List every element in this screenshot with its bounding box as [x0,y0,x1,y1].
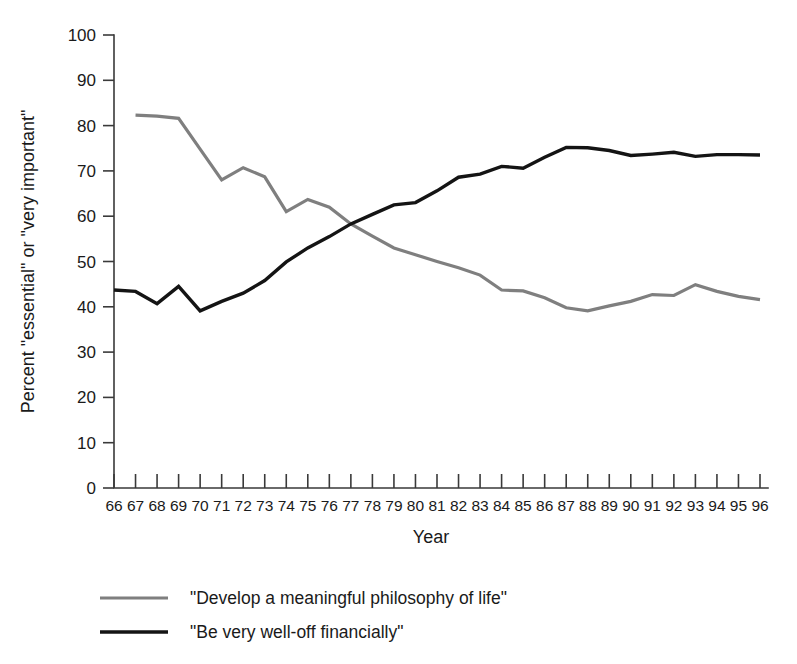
x-tick-label: 92 [665,497,682,514]
y-tick-label: 40 [77,298,96,317]
x-tick-label: 96 [751,497,768,514]
y-tick-label: 70 [77,162,96,181]
y-tick-label: 10 [77,434,96,453]
x-tick-label: 83 [471,497,488,514]
y-tick-label: 50 [77,253,96,272]
y-tick-label: 90 [77,71,96,90]
x-tick-label: 67 [127,497,144,514]
x-tick-label: 85 [515,497,532,514]
x-tick-label: 88 [579,497,596,514]
x-tick-label: 76 [321,497,338,514]
x-tick-label: 81 [428,497,445,514]
x-tick-label: 86 [536,497,553,514]
y-axis: 0102030405060708090100 [68,26,114,498]
y-tick-label: 0 [87,479,96,498]
x-tick-label: 93 [687,497,704,514]
x-tick-label: 75 [299,497,316,514]
x-tick-label: 66 [105,497,122,514]
legend-label: "Be very well-off financially" [190,622,403,642]
x-tick-label: 90 [622,497,640,514]
x-tick-label: 79 [385,497,402,514]
x-tick-label: 80 [407,497,425,514]
x-tick-label: 71 [213,497,230,514]
x-axis-title: Year [413,527,449,547]
x-tick-label: 95 [730,497,747,514]
x-tick-label: 87 [558,497,575,514]
x-tick-label: 70 [192,497,210,514]
y-tick-label: 60 [77,207,96,226]
legend-item[interactable]: "Develop a meaningful philosophy of life… [100,588,507,608]
y-tick-label: 80 [77,117,96,136]
series-line-1 [114,147,760,311]
y-axis-title: Percent "essential" or "very important" [18,110,38,414]
y-tick-label: 20 [77,388,96,407]
x-tick-label: 72 [235,497,252,514]
line-chart: 0102030405060708090100666768697071727374… [0,0,797,664]
legend-item[interactable]: "Be very well-off financially" [100,622,403,642]
legend-label: "Develop a meaningful philosophy of life… [190,588,507,608]
x-tick-label: 74 [278,497,296,514]
x-tick-label: 89 [601,497,618,514]
legend: "Develop a meaningful philosophy of life… [100,588,507,642]
x-tick-label: 78 [364,497,381,514]
x-tick-label: 69 [170,497,187,514]
y-tick-label: 30 [77,343,96,362]
x-tick-label: 84 [493,497,511,514]
y-tick-label: 100 [68,26,96,45]
x-axis: 6667686970717273747576777879808182838485… [105,474,768,514]
series-line-0 [136,115,760,311]
x-tick-label: 73 [256,497,273,514]
x-tick-label: 94 [708,497,726,514]
x-tick-label: 77 [342,497,359,514]
x-tick-label: 68 [148,497,165,514]
x-tick-label: 91 [644,497,661,514]
x-tick-label: 82 [450,497,467,514]
